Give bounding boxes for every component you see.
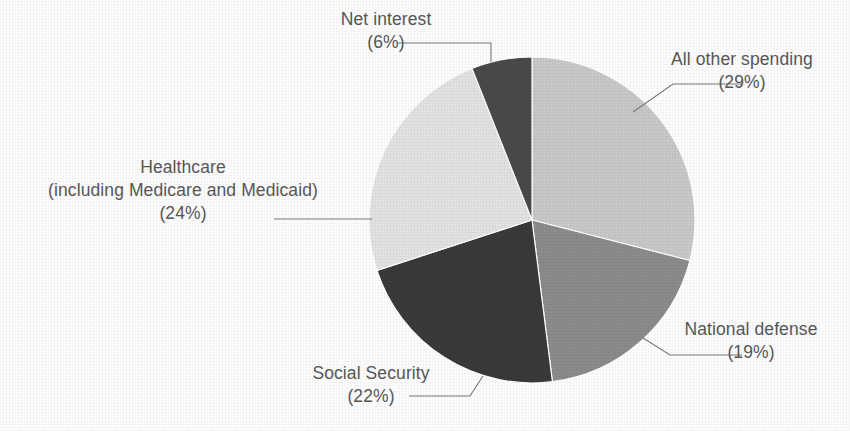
- pie-label-social-security-name: Social Security: [312, 363, 429, 383]
- pie-label-national-defense-percent: (19%): [656, 341, 846, 364]
- pie-label-all-other-spending: All other spending (29%): [644, 48, 840, 94]
- pie-label-healthcare: Healthcare (including Medicare and Medic…: [18, 156, 348, 225]
- pie-label-net-interest-percent: (6%): [306, 31, 466, 54]
- pie-label-social-security: Social Security (22%): [286, 362, 456, 408]
- pie-label-healthcare-detail: (including Medicare and Medicaid): [18, 179, 348, 202]
- pie-label-all-other-spending-percent: (29%): [644, 71, 840, 94]
- pie-label-net-interest: Net interest (6%): [306, 8, 466, 54]
- pie-label-healthcare-name: Healthcare: [140, 157, 226, 177]
- pie-label-net-interest-name: Net interest: [341, 9, 432, 29]
- pie-label-social-security-percent: (22%): [286, 385, 456, 408]
- pie-label-national-defense-name: National defense: [685, 319, 818, 339]
- pie-label-all-other-spending-name: All other spending: [671, 49, 813, 69]
- pie-label-national-defense: National defense (19%): [656, 318, 846, 364]
- pie-chart-figure: Net interest (6%) All other spending (29…: [0, 0, 850, 431]
- pie-slices: [369, 57, 695, 383]
- pie-label-healthcare-percent: (24%): [18, 202, 348, 225]
